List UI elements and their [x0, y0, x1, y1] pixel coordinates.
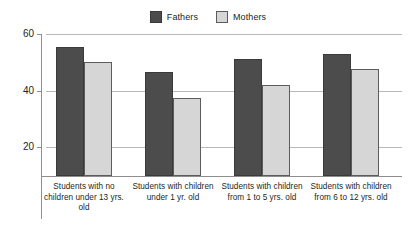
legend-entry-mothers: Mothers [216, 11, 266, 23]
plot-area: 204060 [46, 34, 402, 176]
y-tick-mark-60 [37, 34, 42, 35]
category-label-line: from 6 to 12 yrs. old [297, 193, 405, 204]
y-tick-label-60: 60 [23, 29, 34, 39]
category-label-line: Students with children [297, 182, 405, 193]
y-tick-label-20: 20 [23, 142, 34, 152]
y-tick-mark-40 [37, 91, 42, 92]
legend-swatch-fathers-icon [150, 11, 162, 23]
category-label-line: old [30, 203, 138, 214]
bar-mothers-1 [173, 98, 201, 176]
bar-mothers-3 [351, 69, 379, 176]
legend-label-fathers: Fathers [167, 12, 198, 22]
bar-group [234, 34, 290, 176]
bar-chart: Fathers Mothers 204060 Students with noc… [0, 0, 416, 246]
bar-group [56, 34, 112, 176]
bar-mothers-0 [84, 62, 112, 176]
y-tick-label-40: 40 [23, 86, 34, 96]
chart-legend: Fathers Mothers [0, 11, 416, 23]
category-label-3: Students with childrenfrom 6 to 12 yrs. … [297, 182, 405, 203]
bar-group [323, 34, 379, 176]
x-axis-baseline [41, 176, 402, 177]
bar-group [145, 34, 201, 176]
legend-entry-fathers: Fathers [150, 11, 198, 23]
bar-fathers-2 [234, 59, 262, 176]
bar-fathers-3 [323, 54, 351, 176]
bar-fathers-0 [56, 47, 84, 176]
legend-swatch-mothers-icon [216, 11, 228, 23]
bar-mothers-2 [262, 85, 290, 176]
legend-label-mothers: Mothers [233, 12, 266, 22]
bar-fathers-1 [145, 72, 173, 176]
y-tick-mark-20 [37, 147, 42, 148]
